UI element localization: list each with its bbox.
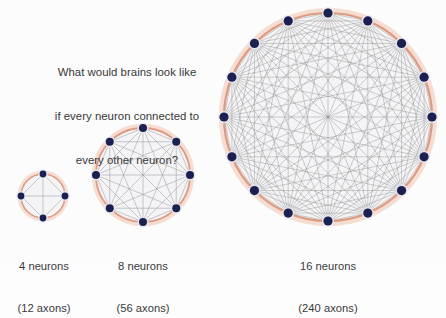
neuron-node (227, 152, 236, 161)
neuron-node (323, 216, 332, 225)
label-four-neurons-count: 4 neurons (0, 259, 88, 273)
neuron-node (323, 8, 332, 17)
sixteen-neuron-complete-graph (218, 7, 438, 227)
label-four-neurons: 4 neurons (12 axons) (0, 231, 88, 318)
neuron-node (363, 16, 372, 25)
label-sixteen-neurons-count: 16 neurons (268, 259, 388, 273)
neuron-node (18, 193, 25, 200)
neuron-node (397, 39, 406, 48)
label-four-neurons-axons: (12 axons) (0, 301, 88, 315)
neuron-node (227, 73, 236, 82)
label-sixteen-neurons: 16 neurons (240 axons) (268, 231, 388, 318)
question-line-2: if every neuron connected to (32, 109, 222, 124)
question-line-1: What would brains look like (32, 65, 222, 80)
label-eight-neurons-axons: (56 axons) (98, 301, 188, 315)
neuron-node (106, 204, 114, 212)
neuron-node (363, 208, 372, 217)
neuron-node (284, 16, 293, 25)
neuron-node (419, 152, 428, 161)
neuron-node (139, 218, 147, 226)
neuron-node (40, 215, 47, 222)
neuron-node (427, 112, 436, 121)
neuron-node (284, 208, 293, 217)
neuron-node (419, 73, 428, 82)
neuron-node (172, 204, 180, 212)
label-eight-neurons-count: 8 neurons (98, 259, 188, 273)
neuron-node (250, 39, 259, 48)
question-line-3: every other neuron? (32, 153, 222, 168)
label-eight-neurons: 8 neurons (56 axons) (98, 231, 188, 318)
neuron-node (250, 186, 259, 195)
neuron-node (397, 186, 406, 195)
question-caption: What would brains look like if every neu… (32, 36, 222, 197)
label-sixteen-neurons-axons: (240 axons) (268, 301, 388, 315)
